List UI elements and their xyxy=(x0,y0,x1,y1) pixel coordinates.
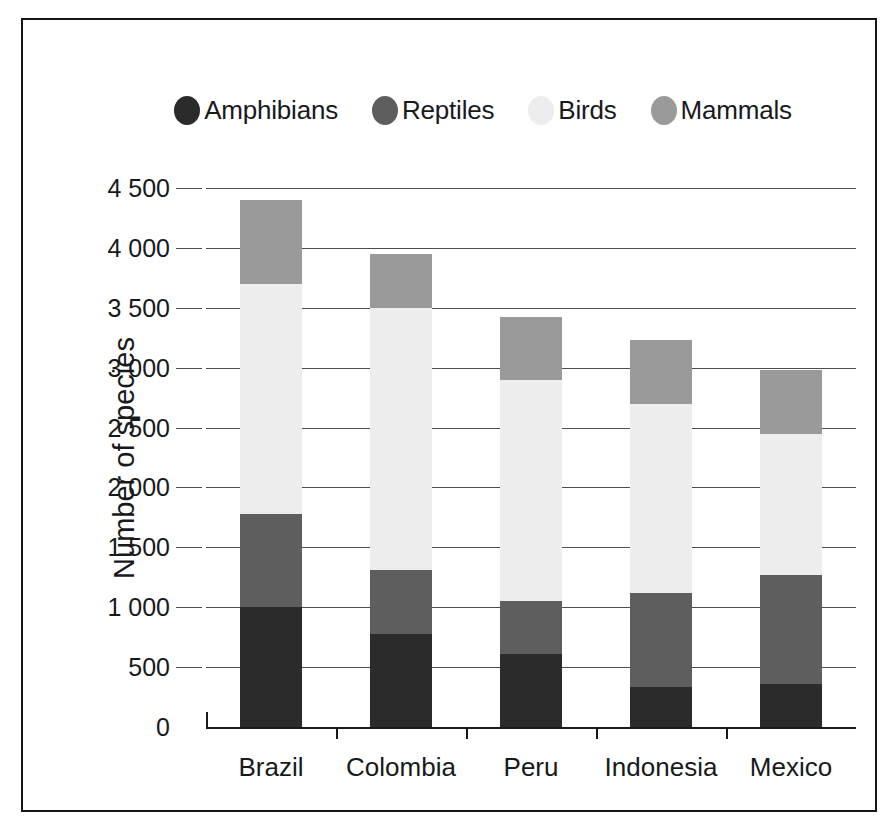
bar-segment-amphibians xyxy=(760,684,822,727)
y-axis-tick xyxy=(176,188,202,189)
bar-segment-birds xyxy=(500,380,562,602)
legend-item-label: Amphibians xyxy=(204,97,338,123)
y-axis-line xyxy=(206,712,208,729)
y-axis-tick xyxy=(176,607,202,608)
bar-segment-mammals xyxy=(370,254,432,308)
y-axis-tick xyxy=(176,308,202,309)
y-axis-tick xyxy=(176,487,202,488)
legend-item-label: Reptiles xyxy=(402,97,494,123)
x-axis-label-colombia: Colombia xyxy=(346,754,456,780)
legend-swatch-icon xyxy=(528,96,554,125)
legend-item-mammals[interactable]: Mammals xyxy=(651,96,792,125)
bar-segment-amphibians xyxy=(630,687,692,727)
bar-segment-mammals xyxy=(630,340,692,403)
y-axis-tick-label: 4 500 xyxy=(107,176,170,201)
figure-frame: AmphibiansReptilesBirdsMammals Number of… xyxy=(21,18,877,812)
chart-figure: AmphibiansReptilesBirdsMammals Number of… xyxy=(0,0,895,837)
bar-segment-amphibians xyxy=(370,634,432,727)
y-axis-tick xyxy=(176,428,202,429)
gridline xyxy=(206,248,856,249)
legend-item-birds[interactable]: Birds xyxy=(528,96,616,125)
y-axis-tick xyxy=(176,547,202,548)
x-axis-tick xyxy=(726,727,728,739)
bar-segment-reptiles xyxy=(370,570,432,633)
legend-item-label: Mammals xyxy=(681,97,792,123)
x-axis-tick xyxy=(596,727,598,739)
y-axis-tick-label: 2 000 xyxy=(107,475,170,500)
legend-item-amphibians[interactable]: Amphibians xyxy=(174,96,338,125)
bar-segment-amphibians xyxy=(240,607,302,727)
bar-segment-birds xyxy=(630,404,692,593)
chart-legend: AmphibiansReptilesBirdsMammals xyxy=(173,82,793,138)
x-axis-tick xyxy=(466,727,468,739)
bar-segment-birds xyxy=(240,284,302,514)
gridline xyxy=(206,308,856,309)
bar-segment-birds xyxy=(760,434,822,575)
y-axis-tick xyxy=(176,248,202,249)
bar-segment-reptiles xyxy=(240,514,302,607)
y-axis-tick-label: 500 xyxy=(128,655,170,680)
y-axis-tick-label: 1 500 xyxy=(107,535,170,560)
y-axis-tick-label: 2 500 xyxy=(107,415,170,440)
x-axis-label-peru: Peru xyxy=(504,754,559,780)
legend-item-reptiles[interactable]: Reptiles xyxy=(372,96,494,125)
x-axis-label-brazil: Brazil xyxy=(238,754,303,780)
gridline xyxy=(206,188,856,189)
legend-swatch-icon xyxy=(651,96,677,125)
x-axis-label-mexico: Mexico xyxy=(750,754,832,780)
y-axis-tick-label: 0 xyxy=(156,715,170,740)
legend-swatch-icon xyxy=(372,96,398,125)
bar-segment-mammals xyxy=(500,317,562,379)
bar-segment-birds xyxy=(370,308,432,570)
x-axis-tick xyxy=(336,727,338,739)
bar-segment-mammals xyxy=(240,200,302,284)
x-axis-line xyxy=(206,727,856,729)
y-axis-tick-label: 3 000 xyxy=(107,355,170,380)
bar-segment-reptiles xyxy=(760,575,822,684)
plot-area: Number of species 05001 0001 5002 0002 5… xyxy=(206,188,856,727)
legend-item-label: Birds xyxy=(558,97,616,123)
bar-segment-amphibians xyxy=(500,654,562,727)
bar-segment-mammals xyxy=(760,370,822,433)
y-axis-tick-label: 3 500 xyxy=(107,295,170,320)
bar-segment-reptiles xyxy=(630,593,692,688)
y-axis-tick xyxy=(176,368,202,369)
legend-swatch-icon xyxy=(174,96,200,125)
bar-segment-reptiles xyxy=(500,601,562,654)
x-axis-label-indonesia: Indonesia xyxy=(605,754,718,780)
y-axis-tick-label: 4 000 xyxy=(107,235,170,260)
y-axis-tick xyxy=(176,667,202,668)
y-axis-tick-label: 1 000 xyxy=(107,595,170,620)
